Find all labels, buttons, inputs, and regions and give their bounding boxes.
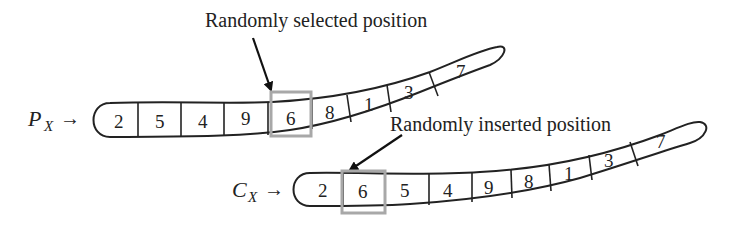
parent-cell-4: 6 bbox=[286, 108, 296, 129]
child-cell-8: 7 bbox=[656, 131, 666, 152]
child-cell-3: 4 bbox=[443, 180, 453, 201]
child-sub: X bbox=[247, 189, 258, 205]
parent-cell-5: 8 bbox=[325, 102, 335, 123]
parent-cell-1: 5 bbox=[155, 111, 165, 132]
inserted-position-arrow bbox=[350, 135, 402, 170]
parent-var: P bbox=[27, 106, 41, 131]
child-cell-0: 2 bbox=[318, 180, 328, 201]
inserted-position-label: Randomly inserted position bbox=[390, 113, 611, 136]
child-arrow-icon: → bbox=[264, 178, 284, 200]
parent-cell-3: 9 bbox=[241, 108, 251, 129]
child-cell-7: 3 bbox=[604, 150, 614, 171]
parent-sub: X bbox=[43, 118, 54, 134]
parent-cell-8: 7 bbox=[456, 61, 466, 82]
child-var: C bbox=[232, 177, 247, 202]
parent-arrow-icon: → bbox=[60, 107, 80, 129]
selected-position-arrow bbox=[253, 38, 271, 90]
child-cell-1: 6 bbox=[358, 181, 368, 202]
parent-cell-0: 2 bbox=[114, 111, 124, 132]
insertion-mutation-diagram: Randomly selected position P X → 2 5 4 9… bbox=[0, 0, 735, 227]
child-cell-6: 1 bbox=[564, 163, 574, 184]
child-cell-4: 9 bbox=[484, 177, 494, 198]
parent-cell-2: 4 bbox=[198, 111, 208, 132]
selected-position-label: Randomly selected position bbox=[205, 9, 427, 32]
child-cell-5: 8 bbox=[524, 171, 534, 192]
parent-cell-6: 1 bbox=[364, 94, 374, 115]
parent-label: P X → bbox=[27, 106, 80, 134]
child-label: C X → bbox=[232, 177, 284, 205]
child-cell-2: 5 bbox=[400, 180, 410, 201]
parent-cell-7: 3 bbox=[404, 82, 414, 103]
